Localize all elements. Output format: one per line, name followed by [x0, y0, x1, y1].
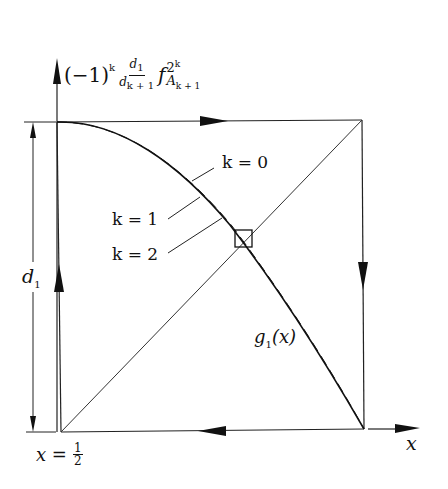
right-edge-arrow-icon [358, 262, 368, 290]
d1-base: d [22, 265, 34, 287]
y-axis-label: (−1)k d1 dk + 1 f 2k Ak + 1 [64, 58, 200, 92]
function-label: g1(x) [254, 326, 296, 350]
x-axis-label: x [406, 432, 417, 454]
func-name: g [254, 326, 266, 347]
func-sub-sub: k + 1 [176, 80, 200, 90]
left-edge-arrow-icon [54, 264, 64, 292]
frac-den-sub: k + 1 [127, 80, 154, 91]
curve-label-k0: k = 0 [222, 152, 268, 172]
curves [57, 122, 364, 429]
func-sub: A [166, 73, 175, 88]
y-label-prefix: (−1) [64, 63, 109, 87]
frac-num-sub: 1 [137, 63, 143, 74]
curve-label-k1: k = 1 [112, 209, 158, 229]
frac-den: d [119, 75, 127, 89]
origin-label: x = 1 2 [36, 442, 83, 467]
func-arg: (x) [272, 326, 296, 347]
curve-label-k2: k = 2 [112, 244, 158, 264]
y-label-func-scripts: 2k Ak + 1 [166, 58, 200, 93]
d1-label: d1 [22, 265, 41, 290]
fixed-point-box [235, 230, 252, 247]
diagonals [61, 120, 362, 432]
y-label-prefix-exp: k [109, 62, 115, 73]
y-label-fraction: d1 dk + 1 [119, 58, 154, 92]
func-sup-exp: k [175, 59, 180, 69]
bottom-edge-arrow-icon [198, 426, 226, 436]
origin-lhs: x = [36, 444, 67, 465]
leader-lines [168, 168, 222, 253]
top-edge-arrow-icon [200, 116, 228, 126]
square-orbit-box [57, 120, 364, 432]
origin-den: 2 [74, 455, 82, 467]
origin-fraction: 1 2 [73, 442, 83, 467]
y-label-func: f [158, 63, 165, 87]
d1-sub: 1 [34, 279, 40, 290]
